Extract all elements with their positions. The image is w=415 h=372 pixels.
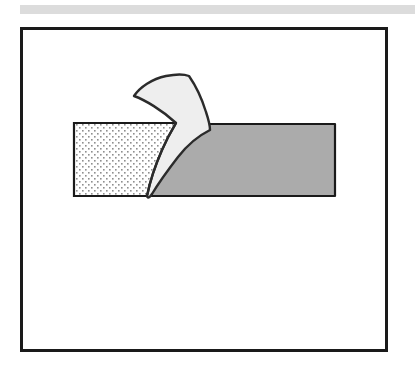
- horizontal-rule: [20, 5, 415, 14]
- screenshot-page: [0, 0, 415, 372]
- figure-frame: [20, 27, 388, 352]
